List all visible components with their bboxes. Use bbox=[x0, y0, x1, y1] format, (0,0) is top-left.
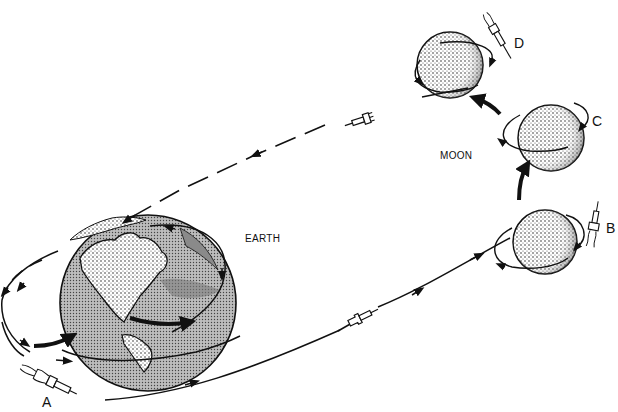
moon-stage-b bbox=[495, 210, 584, 274]
moon-stage-d bbox=[415, 32, 493, 98]
spacecraft-icon-d bbox=[482, 11, 515, 60]
stage-label-a: A bbox=[42, 394, 51, 410]
spacecraft-icon-transit-out bbox=[347, 305, 380, 328]
stage-label-d: D bbox=[514, 35, 524, 51]
moon-label: MOON bbox=[440, 150, 472, 161]
trajectory-diagram: EARTH MOON A B C D bbox=[0, 0, 618, 412]
spacecraft-icon-return bbox=[343, 112, 375, 131]
moon-stage-c bbox=[501, 103, 588, 171]
spacecraft-icon-b bbox=[585, 200, 603, 247]
earth bbox=[60, 215, 236, 391]
stage-label-c: C bbox=[592, 113, 602, 129]
stage-label-b: B bbox=[606, 220, 615, 236]
earth-label: EARTH bbox=[245, 233, 280, 244]
return-path bbox=[130, 125, 325, 218]
